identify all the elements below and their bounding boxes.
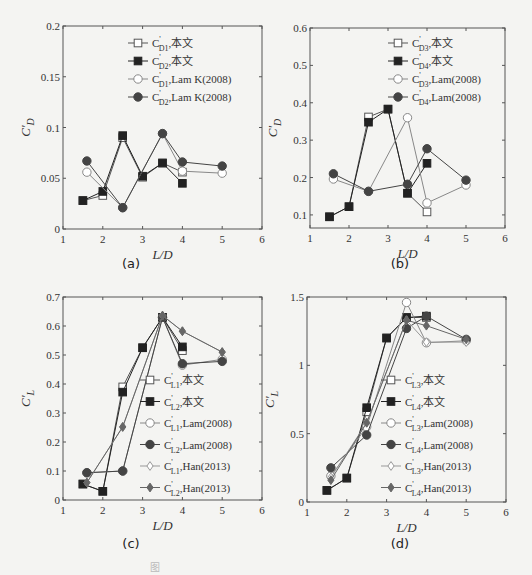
data-point (423, 160, 431, 168)
x-tick-label: 4 (424, 232, 430, 244)
legend-item: C'L1,Han(2013) (140, 458, 230, 476)
data-point (384, 105, 392, 113)
y-tick-label: 0 (55, 223, 61, 235)
legend-label: C'D3,本文 (412, 35, 453, 53)
x-axis-label: L/D (151, 247, 173, 262)
legend-label: C'L2,Lam(2008) (164, 437, 232, 455)
figure-canvas: 图 12345600.050.10.150.2L/DC'DC'D1,本文C'D2… (0, 0, 532, 575)
legend-item: C'D3,Lam(2008) (388, 71, 481, 89)
legend: C'D3,本文C'D4,本文C'D3,Lam(2008)C'D4,Lam(200… (388, 35, 481, 107)
data-point (462, 176, 470, 184)
series-line (331, 320, 466, 480)
x-tick-label: 2 (100, 504, 106, 516)
series-1 (326, 105, 431, 220)
legend-marker (394, 93, 402, 101)
legend-label: C'D4,本文 (412, 53, 453, 71)
legend-label: C'D4,Lam(2008) (412, 89, 481, 107)
legend-item: C'D1,Lam K(2008) (128, 71, 232, 89)
x-tick-label: 2 (100, 233, 106, 245)
data-point (179, 180, 187, 188)
legend-marker (134, 39, 142, 47)
legend-label: C'D3,Lam(2008) (412, 71, 481, 89)
panel-label: (a) (122, 256, 140, 271)
legend-item: C'L3,Lam(2008) (381, 415, 473, 433)
series-line (330, 109, 428, 217)
legend-marker (146, 419, 154, 427)
data-point (119, 132, 127, 140)
x-axis-label: L/D (151, 518, 173, 533)
data-point (364, 187, 372, 195)
legend-item: C'L4,本文 (381, 394, 445, 412)
legend-item: C'L4,Lam(2008) (381, 437, 473, 455)
data-point (99, 188, 107, 196)
y-tick-label: 0.5 (293, 59, 307, 71)
data-point (119, 467, 127, 475)
legend-item: C'D1,本文 (128, 35, 193, 53)
x-axis-label: L/D (395, 520, 417, 535)
y-tick-label: 0.2 (293, 172, 307, 184)
data-point (343, 474, 351, 482)
legend-label: C'L4,Han(2013) (405, 480, 471, 498)
legend-marker (387, 440, 395, 448)
legend-item: C'L2,Lam(2008) (140, 437, 232, 455)
y-axis-label: C'L (262, 391, 280, 408)
legend-marker (146, 376, 154, 384)
data-point (423, 321, 429, 330)
y-axis-label: C'L (18, 390, 36, 407)
legend-marker (387, 419, 395, 427)
legend-label: C'L4,本文 (405, 394, 445, 412)
data-point (119, 388, 127, 396)
legend-marker (146, 440, 154, 448)
legend-item: C'D4,Lam(2008) (388, 89, 481, 107)
y-tick-label: 0.1 (293, 209, 307, 221)
legend-label: C'L4,Lam(2008) (405, 437, 473, 455)
data-point (218, 162, 226, 170)
x-tick-label: 3 (385, 232, 391, 244)
data-point (83, 168, 91, 176)
data-point (178, 158, 186, 166)
data-point (404, 189, 412, 197)
chart-panel-b: 1234560.10.20.30.40.50.6L/DC'DC'D3,本文C'D… (265, 22, 508, 271)
x-tick-label: 3 (140, 233, 146, 245)
data-point (99, 488, 107, 496)
x-tick-label: 6 (503, 506, 509, 518)
data-point (158, 129, 166, 137)
x-tick-label: 5 (463, 232, 469, 244)
legend-item: C'L4,Han(2013) (381, 480, 471, 498)
x-tick-label: 4 (180, 233, 186, 245)
x-tick-label: 5 (219, 233, 225, 245)
data-point (326, 213, 334, 221)
legend-item: C'L3,本文 (381, 372, 445, 390)
y-tick-label: 0.2 (46, 436, 60, 448)
data-point (139, 344, 147, 352)
x-tick-label: 5 (219, 504, 225, 516)
series-0 (326, 105, 431, 220)
legend: C'D1,本文C'D2,本文C'D1,Lam K(2008)C'D2,Lam K… (128, 35, 232, 107)
data-point (403, 180, 411, 188)
data-point (83, 157, 91, 165)
y-tick-label: 0 (55, 494, 61, 506)
legend-marker (387, 376, 395, 384)
series-line (330, 109, 428, 217)
y-tick-label: 0.7 (46, 291, 60, 303)
y-tick-label: 0 (299, 496, 305, 508)
x-tick-label: 6 (259, 233, 265, 245)
x-tick-label: 1 (60, 233, 66, 245)
data-point (159, 159, 167, 167)
data-point (179, 327, 185, 336)
x-tick-label: 1 (307, 232, 313, 244)
y-tick-label: 0.4 (293, 97, 307, 109)
y-tick-label: 0.3 (46, 407, 60, 419)
panel-label: (c) (122, 536, 139, 551)
legend-item: C'L1,Lam(2008) (140, 415, 232, 433)
legend-marker (387, 398, 395, 406)
legend-marker (394, 39, 402, 47)
legend-marker (134, 57, 142, 65)
data-point (79, 197, 87, 205)
x-tick-label: 5 (463, 506, 469, 518)
series-1 (79, 132, 186, 205)
x-tick-label: 6 (502, 232, 508, 244)
legend: C'L3,本文C'L4,本文C'L3,Lam(2008)C'L4,Lam(200… (381, 372, 473, 498)
data-point (383, 334, 391, 342)
plot-area-frame (310, 28, 505, 228)
